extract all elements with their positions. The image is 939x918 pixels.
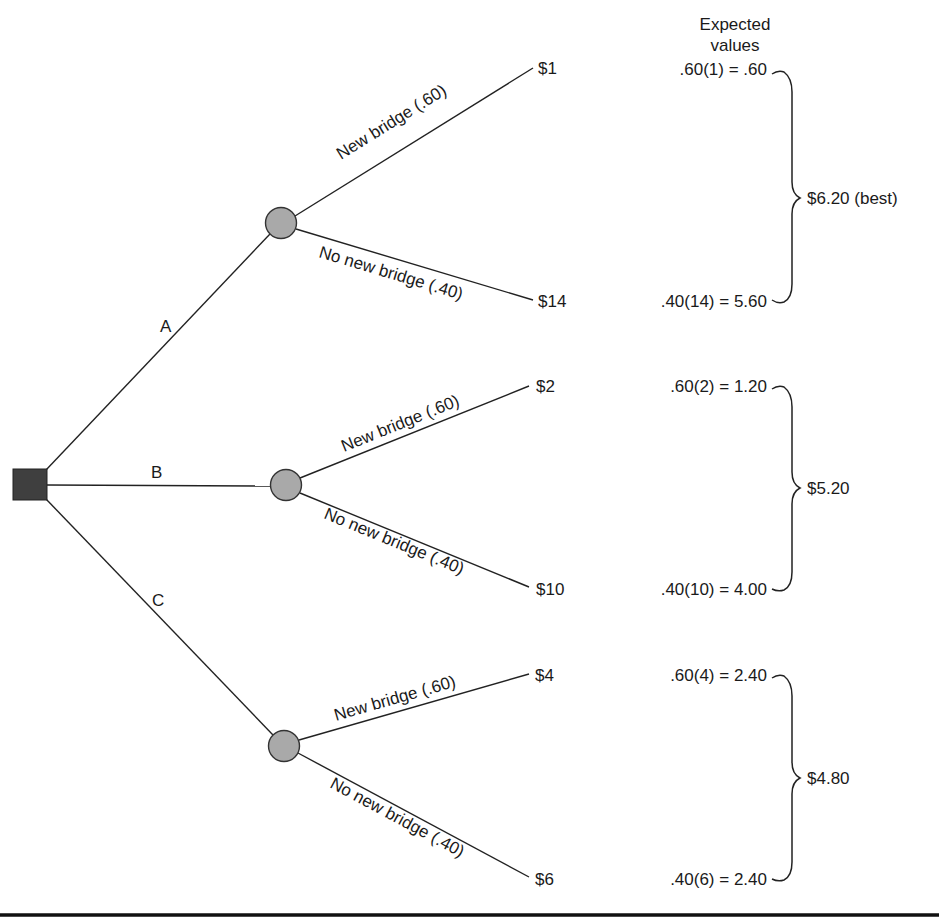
chance-node-b [271,470,302,501]
edge-b-new-bridge [300,386,529,478]
ev-expr-b-new-bridge: .60(2) = 1.20 [670,377,767,396]
decision-node-square [13,469,47,500]
payoff-a-no-new-bridge: $14 [538,292,566,311]
ev-expr-a-no-new-bridge: .40(14) = 5.60 [661,292,767,311]
event-label-b-new-bridge: New bridge (.60) [338,391,462,456]
edge-alternative-b [47,485,270,486]
ev-expr-c-no-new-bridge: .40(6) = 2.40 [670,870,767,889]
payoff-c-new-bridge: $4 [535,666,554,685]
total-alternative-a: $6.20 (best) [807,189,898,208]
event-label-b-no-new-bridge: No new bridge (.40) [321,504,466,578]
payoff-b-new-bridge: $2 [536,377,555,396]
payoff-c-no-new-bridge: $6 [535,870,554,889]
ev-expr-c-new-bridge: .60(4) = 2.40 [670,666,767,685]
ev-expr-b-no-new-bridge: .40(10) = 4.00 [661,580,767,599]
header-title-line2: values [710,36,759,55]
brace-a-icon [772,71,800,302]
payoff-b-no-new-bridge: $10 [536,580,564,599]
event-label-a-new-bridge: New bridge (.60) [333,81,450,164]
header-title-line1: Expected [700,15,771,34]
brace-b-icon [772,386,800,590]
edge-a-new-bridge [295,68,533,216]
chance-node-c [269,731,300,762]
alternative-label-a: A [160,317,172,336]
total-alternative-c: $4.80 [807,769,850,788]
event-label-c-no-new-bridge: No new bridge (.40) [327,774,468,861]
edge-alternative-c [46,499,273,735]
brace-c-icon [772,675,800,880]
ev-expr-a-new-bridge: .60(1) = .60 [680,60,767,79]
event-label-c-new-bridge: New bridge (.60) [332,672,458,725]
total-alternative-b: $5.20 [807,479,850,498]
payoff-a-new-bridge: $1 [538,59,557,78]
edge-alternative-a [46,234,270,470]
alternative-label-b: B [151,463,162,482]
alternative-label-c: C [152,591,164,610]
decision-tree-diagram: Expected values A B C New bridge (.60) N… [0,0,939,918]
chance-node-a [266,208,297,239]
